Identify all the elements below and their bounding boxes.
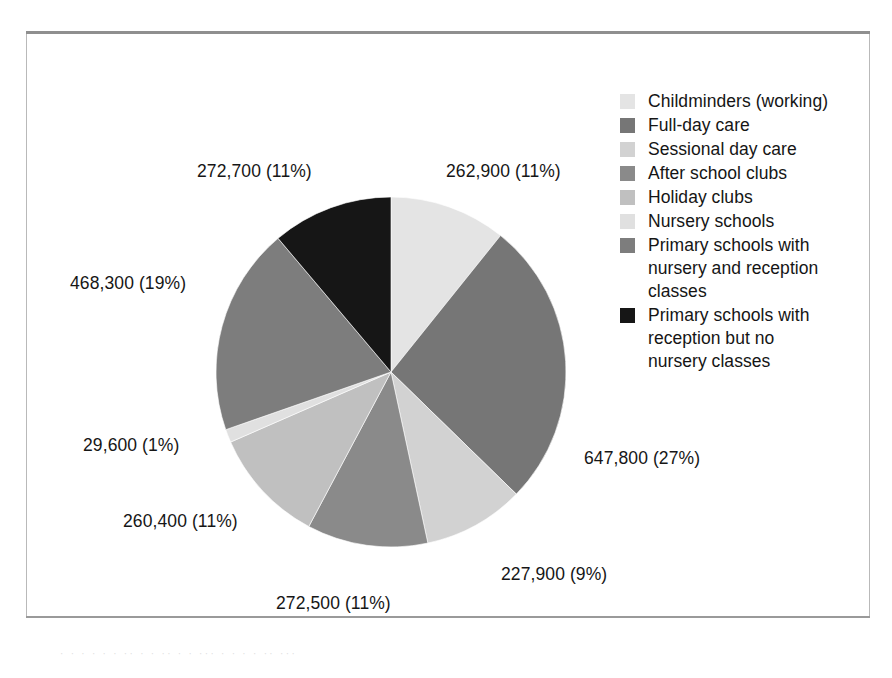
scan-artifact-text: · · · · · · ·· · · ·· · · ··· · · · · ··… [60, 648, 850, 662]
legend-item-label: After school clubs [648, 162, 787, 185]
pie-chart [189, 170, 593, 574]
legend-item: Sessional day care [620, 138, 878, 161]
pie-slice-group [216, 197, 566, 547]
label-after-school: 272,500 (11%) [276, 595, 391, 613]
legend-color-swatch [620, 214, 635, 229]
legend-color-swatch [620, 308, 635, 323]
legend-item-label: Full-day care [648, 114, 750, 137]
label-primary-reception: 272,700 (11%) [197, 163, 312, 181]
label-holiday-clubs: 260,400 (11%) [123, 513, 238, 531]
legend-color-swatch [620, 166, 635, 181]
legend-color-swatch [620, 94, 635, 109]
legend: Childminders (working)Full-day careSessi… [620, 90, 878, 374]
legend-item: Primary schools with reception but no nu… [620, 304, 878, 373]
scanned-page: 262,900 (11%)647,800 (27%)227,900 (9%)27… [0, 0, 892, 678]
legend-item: After school clubs [620, 162, 878, 185]
legend-item-label: Holiday clubs [648, 186, 753, 209]
label-full-day-care: 647,800 (27%) [584, 450, 700, 468]
legend-item-label: Childminders (working) [648, 90, 828, 113]
legend-item: Primary schools with nursery and recepti… [620, 234, 878, 303]
label-primary-nursery: 468,300 (19%) [70, 275, 186, 293]
legend-item: Full-day care [620, 114, 878, 137]
pie-chart-svg [189, 170, 593, 574]
legend-color-swatch [620, 142, 635, 157]
legend-color-swatch [620, 190, 635, 205]
label-nursery-schools: 29,600 (1%) [83, 437, 179, 455]
legend-item-label: Nursery schools [648, 210, 774, 233]
legend-color-swatch [620, 238, 635, 253]
figure-frame: 262,900 (11%)647,800 (27%)227,900 (9%)27… [26, 31, 870, 618]
legend-item: Holiday clubs [620, 186, 878, 209]
legend-item: Childminders (working) [620, 90, 878, 113]
legend-item-label: Sessional day care [648, 138, 797, 161]
label-sessional: 227,900 (9%) [501, 566, 607, 584]
legend-item-label: Primary schools with reception but no nu… [648, 304, 809, 373]
legend-item-label: Primary schools with nursery and recepti… [648, 234, 818, 303]
label-childminders: 262,900 (11%) [446, 163, 561, 181]
legend-color-swatch [620, 118, 635, 133]
legend-item: Nursery schools [620, 210, 878, 233]
